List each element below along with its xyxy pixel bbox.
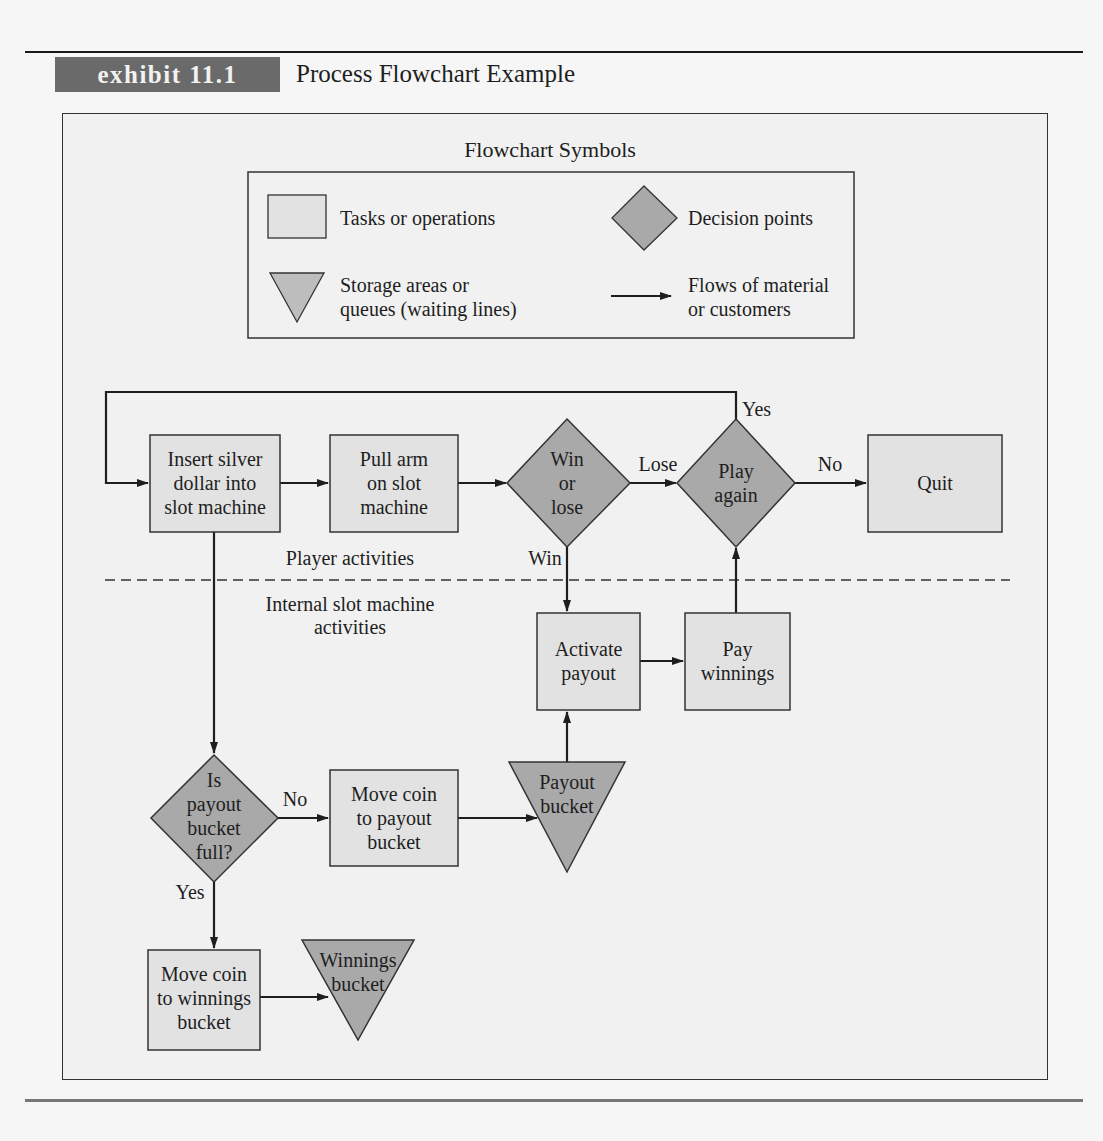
node-pull-label: Pull arm on slot machine bbox=[330, 447, 458, 519]
legend-task-icon bbox=[268, 195, 326, 238]
node-move-to-winnings-label: Move coin to winnings bucket bbox=[148, 962, 260, 1034]
legend-storage-label-2: queues (waiting lines) bbox=[340, 297, 517, 321]
node-insert-label: Insert silver dollar into slot machine bbox=[150, 447, 280, 519]
bottom-rule bbox=[25, 1099, 1083, 1102]
swimlane-lower-label-1: Internal slot machine bbox=[230, 592, 470, 616]
node-win-or-lose-label: Win or lose bbox=[527, 447, 607, 519]
legend-task-label: Tasks or operations bbox=[340, 206, 495, 230]
edge-label-yes-play: Yes bbox=[742, 397, 771, 421]
edge-label-lose: Lose bbox=[628, 452, 688, 476]
node-winnings-bucket-label: Winnings bucket bbox=[308, 948, 408, 996]
node-is-payout-full-label: Is payout bucket full? bbox=[174, 768, 254, 864]
edge-label-no-full: No bbox=[270, 787, 320, 811]
node-play-again-label: Play again bbox=[696, 459, 776, 507]
legend-title: Flowchart Symbols bbox=[400, 138, 700, 162]
node-payout-bucket-label: Payout bucket bbox=[527, 770, 607, 818]
legend-flow-label-2: or customers bbox=[688, 297, 791, 321]
edge-label-yes-full: Yes bbox=[165, 880, 215, 904]
legend-decision-label: Decision points bbox=[688, 206, 813, 230]
legend-flow-label-1: Flows of material bbox=[688, 273, 829, 297]
node-move-to-payout-label: Move coin to payout bucket bbox=[330, 782, 458, 854]
edge-label-no-play: No bbox=[800, 452, 860, 476]
edge-label-win: Win bbox=[520, 546, 570, 570]
swimlane-lower-label-2: activities bbox=[230, 615, 470, 639]
swimlane-upper-label: Player activities bbox=[250, 546, 450, 570]
node-pay-winnings-label: Pay winnings bbox=[685, 637, 790, 685]
legend-storage-label-1: Storage areas or bbox=[340, 273, 469, 297]
node-activate-payout-label: Activate payout bbox=[537, 637, 640, 685]
node-quit-label: Quit bbox=[868, 471, 1002, 495]
